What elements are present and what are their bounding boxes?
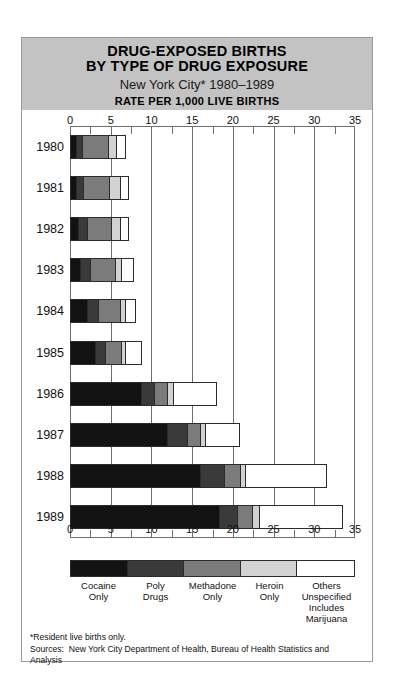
bar-segment-methadone-only xyxy=(155,383,168,405)
y-axis-tick-label: 1982 xyxy=(36,222,64,236)
bar-segment-methadone-only xyxy=(84,177,110,199)
x-tick-label: 0 xyxy=(67,114,73,126)
plot-area: 05101520253035 1980198119821983198419851… xyxy=(22,110,372,552)
sources-continuation: Analysis xyxy=(30,655,366,667)
bar-segment-others-unspecified xyxy=(126,342,142,364)
legend-item-label: HeroinOnly xyxy=(241,580,298,624)
bar-segment-poly-drugs xyxy=(142,383,156,405)
y-axis-tick-label: 1985 xyxy=(36,346,64,360)
bar-segment-poly-drugs xyxy=(77,177,84,199)
legend-label-line: Poly xyxy=(127,580,184,591)
stacked-bar xyxy=(70,423,240,447)
y-axis-tick-label: 1986 xyxy=(36,387,64,401)
stacked-bar xyxy=(70,299,136,323)
bar-segment-cocaine-only xyxy=(71,259,81,281)
bar-segment-others-unspecified xyxy=(121,218,128,240)
x-tick-label: 20 xyxy=(227,523,239,535)
chart-legend: CocaineOnlyPolyDrugsMethadoneOnlyHeroinO… xyxy=(22,560,372,622)
x-tick-label: 35 xyxy=(349,523,361,535)
y-axis-tick-label: 1983 xyxy=(36,263,64,277)
bar-row xyxy=(70,382,355,406)
bar-segment-cocaine-only xyxy=(71,465,201,487)
sources-line: Sources: New York City Department of Hea… xyxy=(30,644,366,656)
legend-item-label: OthersUnspecifiedIncludes Marijuana xyxy=(298,580,355,624)
legend-item-label: PolyDrugs xyxy=(127,580,184,624)
legend-label-line: Heroin xyxy=(241,580,298,591)
stacked-bar xyxy=(70,341,142,365)
bar-segment-others-unspecified xyxy=(126,300,135,322)
bar-segment-methadone-only xyxy=(99,300,120,322)
legend-label-line: Others xyxy=(298,580,355,591)
chart-title-line-1: DRUG-EXPOSED BIRTHS xyxy=(22,38,372,59)
bar-segment-others-unspecified xyxy=(117,136,125,158)
chart-title-line-2: BY TYPE OF DRUG EXPOSURE xyxy=(22,59,372,74)
legend-label-line: Drugs xyxy=(127,591,184,602)
stacked-bar xyxy=(70,382,217,406)
bar-row xyxy=(70,299,355,323)
bar-segment-cocaine-only xyxy=(71,218,79,240)
legend-label-line: Only xyxy=(241,591,298,602)
footnote-resident-births: *Resident live births only. xyxy=(30,632,366,644)
bar-segment-methadone-only xyxy=(88,218,112,240)
x-tick-label: 10 xyxy=(145,114,157,126)
legend-label-line: Only xyxy=(184,591,241,602)
y-axis-tick-label: 1987 xyxy=(36,428,64,442)
chart-notes: *Resident live births only. Sources: New… xyxy=(30,632,366,667)
x-tick-label: 5 xyxy=(108,523,114,535)
legend-label-line: Methadone xyxy=(184,580,241,591)
bars-container xyxy=(70,126,355,538)
legend-swatch xyxy=(297,561,354,576)
bar-segment-methadone-only xyxy=(188,424,200,446)
stacked-bar xyxy=(70,135,126,159)
bar-segment-methadone-only xyxy=(225,465,242,487)
bar-row xyxy=(70,135,355,159)
bar-row xyxy=(70,176,355,200)
chart-page: DRUG-EXPOSED BIRTHS BY TYPE OF DRUG EXPO… xyxy=(0,0,394,695)
stacked-bar xyxy=(70,258,134,282)
x-tick-label: 15 xyxy=(186,523,198,535)
bar-segment-others-unspecified xyxy=(246,465,326,487)
bar-segment-cocaine-only xyxy=(71,300,88,322)
bar-segment-others-unspecified xyxy=(206,424,239,446)
bar-row xyxy=(70,341,355,365)
legend-swatch xyxy=(241,561,298,576)
x-axis-bottom: 05101520253035 xyxy=(22,523,372,539)
legend-label-line: Includes Marijuana xyxy=(298,602,355,624)
legend-item-label: MethadoneOnly xyxy=(184,580,241,624)
x-axis-top: 05101520253035 xyxy=(22,110,372,126)
stacked-bar xyxy=(70,176,129,200)
legend-swatch xyxy=(184,561,241,576)
bar-segment-poly-drugs xyxy=(79,218,88,240)
x-tick-label: 30 xyxy=(308,523,320,535)
x-tick-label: 15 xyxy=(186,114,198,126)
bar-segment-methadone-only xyxy=(83,136,110,158)
bar-segment-others-unspecified xyxy=(174,383,217,405)
x-tick-label: 25 xyxy=(267,114,279,126)
x-tick-label: 5 xyxy=(108,114,114,126)
y-axis-labels: 1980198119821983198419851986198719881989 xyxy=(22,126,68,538)
bar-segment-heroin-only xyxy=(112,218,121,240)
y-axis-tick-label: 1988 xyxy=(36,469,64,483)
bar-segment-others-unspecified xyxy=(121,177,128,199)
stacked-bar xyxy=(70,217,129,241)
legend-label-line: Unspecified xyxy=(298,591,355,602)
bar-segment-cocaine-only xyxy=(71,424,168,446)
x-tick-label: 20 xyxy=(227,114,239,126)
bar-segment-poly-drugs xyxy=(81,259,90,281)
bar-row xyxy=(70,217,355,241)
bar-row xyxy=(70,258,355,282)
bar-segment-poly-drugs xyxy=(168,424,188,446)
bar-segment-poly-drugs xyxy=(201,465,224,487)
legend-swatch xyxy=(71,561,128,576)
bar-segment-heroin-only xyxy=(110,177,121,199)
bar-segment-cocaine-only xyxy=(71,383,142,405)
chart-rate-label: RATE PER 1,000 LIVE BIRTHS xyxy=(22,93,372,108)
bar-segment-cocaine-only xyxy=(71,342,96,364)
bar-row xyxy=(70,423,355,447)
legend-label-row: CocaineOnlyPolyDrugsMethadoneOnlyHeroinO… xyxy=(70,580,355,624)
stacked-bar xyxy=(70,464,327,488)
legend-item-label: CocaineOnly xyxy=(70,580,127,624)
x-tick-label: 25 xyxy=(267,523,279,535)
y-axis-tick-label: 1980 xyxy=(36,140,64,154)
bar-segment-methadone-only xyxy=(91,259,116,281)
